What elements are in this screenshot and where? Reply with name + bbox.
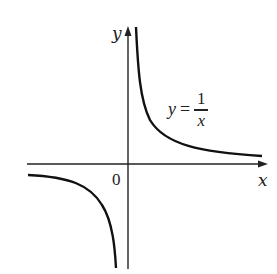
- fraction-numerator: 1: [197, 90, 206, 109]
- equation-lhs: y: [168, 99, 176, 120]
- equation-label: y = 1 x: [168, 90, 208, 129]
- equation-fraction: 1 x: [194, 90, 208, 129]
- y-axis-arrow-icon: [125, 26, 132, 36]
- equation-equals: =: [180, 99, 190, 120]
- plot-area: [0, 0, 277, 274]
- hyperbola-chart: y x 0 y = 1 x: [0, 0, 277, 274]
- fraction-denominator: x: [197, 111, 205, 129]
- curve-negative-branch: [28, 175, 116, 268]
- x-axis-arrow-icon: [258, 161, 268, 168]
- origin-label: 0: [112, 171, 121, 188]
- x-axis-label: x: [258, 172, 268, 189]
- y-axis-label: y: [112, 25, 122, 42]
